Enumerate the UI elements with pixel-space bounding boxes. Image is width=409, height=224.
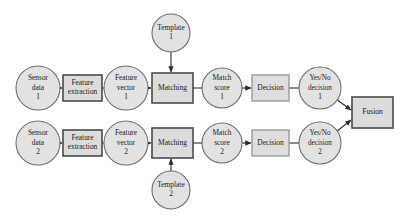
label-feature-extraction-1-line-2: extraction	[68, 87, 98, 96]
label-feature-vector-1-line-3: 1	[124, 92, 128, 101]
label-fusion-line-1: Fusion	[362, 107, 383, 116]
label-template-1-line-2: 1	[169, 32, 173, 41]
node-feature-extraction-2: Featureextraction	[63, 130, 102, 156]
diagram-canvas: Sensordata1FeatureextractionFeaturevecto…	[0, 0, 409, 224]
label-yes-no-decision-1-line-2: decision	[308, 84, 332, 92]
node-match-score-1: Matchscore1	[202, 68, 242, 108]
label-sensor-data-2-line-2: data	[32, 138, 45, 147]
nodes-layer: Sensordata1FeatureextractionFeaturevecto…	[16, 14, 393, 209]
label-template-2-line-2: 2	[169, 189, 173, 198]
node-feature-extraction-1: Featureextraction	[63, 75, 102, 101]
label-sensor-data-1-line-3: 1	[36, 92, 40, 101]
label-yes-no-decision-2-line-1: Yes/No	[309, 129, 331, 137]
node-template-2: Template2	[152, 171, 190, 209]
label-match-score-2-line-3: 2	[220, 147, 224, 156]
node-feature-vector-1: Featurevector1	[104, 66, 148, 110]
flow-diagram: Sensordata1FeatureextractionFeaturevecto…	[0, 0, 409, 224]
label-matching-1-line-1: Matching	[158, 83, 187, 92]
label-yes-no-decision-1-line-3: 1	[318, 93, 322, 101]
label-feature-extraction-2-line-2: extraction	[68, 142, 98, 151]
node-template-1: Template1	[152, 14, 190, 52]
label-match-score-2-line-1: Match	[213, 128, 232, 137]
label-template-1-line-1: Template	[157, 23, 185, 32]
label-matching-2-line-1: Matching	[158, 138, 187, 147]
label-feature-vector-1-line-2: vector	[117, 83, 136, 92]
node-match-score-2: Matchscore2	[202, 123, 242, 163]
connector-yn1-to-fusion	[336, 99, 351, 110]
label-match-score-1-line-1: Match	[213, 73, 232, 82]
label-template-2-line-1: Template	[157, 180, 185, 189]
node-matching-1: Matching	[152, 73, 193, 103]
node-sensor-data-2: Sensordata2	[16, 121, 60, 165]
label-match-score-2-line-2: score	[214, 138, 230, 147]
label-yes-no-decision-1-line-1: Yes/No	[309, 74, 331, 82]
label-sensor-data-2-line-3: 2	[36, 147, 40, 156]
label-feature-extraction-1-line-1: Feature	[71, 78, 94, 87]
label-feature-vector-2-line-1: Feature	[115, 128, 138, 137]
label-match-score-1-line-2: score	[214, 83, 230, 92]
label-decision-1-line-1: Decision	[257, 83, 284, 92]
connector-yn2-to-fusion	[336, 120, 351, 132]
label-feature-vector-2-line-2: vector	[117, 138, 136, 147]
node-sensor-data-1: Sensordata1	[16, 66, 60, 110]
label-sensor-data-1-line-1: Sensor	[28, 73, 49, 82]
label-sensor-data-2-line-1: Sensor	[28, 128, 49, 137]
node-matching-2: Matching	[152, 128, 193, 158]
label-feature-vector-1-line-1: Feature	[115, 73, 138, 82]
node-yes-no-decision-2: Yes/Nodecision2	[299, 122, 341, 164]
node-fusion: Fusion	[352, 97, 393, 128]
node-yes-no-decision-1: Yes/Nodecision1	[299, 67, 341, 109]
label-yes-no-decision-2-line-3: 2	[318, 148, 322, 156]
label-sensor-data-1-line-2: data	[32, 83, 45, 92]
label-feature-extraction-2-line-1: Feature	[71, 133, 94, 142]
node-feature-vector-2: Featurevector2	[104, 121, 148, 165]
label-match-score-1-line-3: 1	[220, 92, 224, 101]
label-feature-vector-2-line-3: 2	[124, 147, 128, 156]
node-decision-1: Decision	[252, 75, 289, 101]
label-yes-no-decision-2-line-2: decision	[308, 139, 332, 147]
label-decision-2-line-1: Decision	[257, 138, 284, 147]
node-decision-2: Decision	[252, 130, 289, 156]
